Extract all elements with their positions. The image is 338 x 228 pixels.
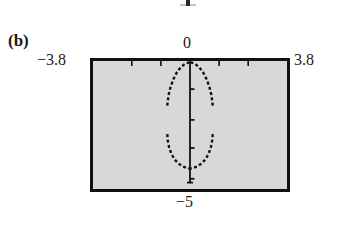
panel-label: (b) bbox=[8, 32, 29, 49]
curve-closed-loop-upper-arc-right bbox=[191, 62, 213, 105]
y-axis-max-label: 0 bbox=[183, 35, 191, 51]
plot-canvas bbox=[93, 61, 287, 189]
clipped-glyph-remnant bbox=[186, 0, 190, 6]
plot-frame bbox=[90, 58, 290, 192]
x-axis-min-label: −3.8 bbox=[37, 52, 66, 68]
y-axis-min-label: −5 bbox=[176, 194, 193, 210]
x-axis-max-label: 3.8 bbox=[294, 52, 314, 68]
plot-area bbox=[93, 61, 287, 189]
curve-closed-loop-lower-arc-left bbox=[167, 134, 189, 168]
curve-closed-loop-upper-arc bbox=[167, 62, 189, 105]
curve-closed-loop-lower-arc-right bbox=[191, 134, 213, 168]
